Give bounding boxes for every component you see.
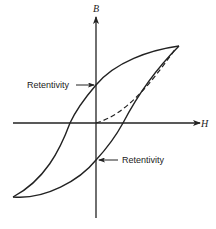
retentivity-label-lower: Retentivity [122, 155, 165, 165]
h-axis-label: H [200, 118, 209, 129]
hysteresis-diagram: B H Retentivity Retentivity [0, 0, 216, 229]
initial-magnetization-curve [96, 48, 176, 123]
b-axis-label: B [93, 3, 99, 14]
retentivity-label-upper: Retentivity [27, 80, 70, 90]
